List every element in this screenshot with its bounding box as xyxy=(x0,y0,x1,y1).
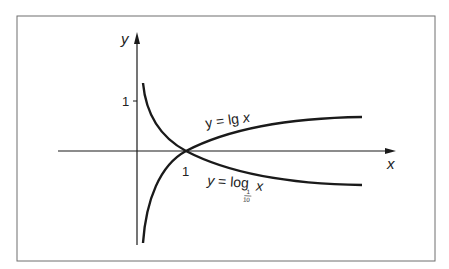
y-axis-arrow-icon xyxy=(134,32,140,44)
x-tick-label: 1 xyxy=(182,164,189,179)
svg-text:x: x xyxy=(255,177,265,194)
curve-log-one-tenth-x xyxy=(143,83,362,185)
figure-frame xyxy=(17,16,435,261)
curve-log-one-tenth-label: y = log 1 10 x xyxy=(205,172,265,204)
log-graph-figure: y x 1 1 y = lg x y = log 1 10 x xyxy=(0,0,449,269)
x-axis-label: x xyxy=(386,155,395,172)
svg-text:y = log: y = log xyxy=(206,172,250,191)
y-axis-label: y xyxy=(120,30,130,47)
curve-lg-x xyxy=(143,117,362,243)
svg-text:1: 1 xyxy=(246,189,250,195)
y-tick-label: 1 xyxy=(122,94,129,109)
svg-text:10: 10 xyxy=(243,197,251,203)
x-axis-arrow-icon xyxy=(385,148,396,154)
curve-lg-label: y = lg x xyxy=(204,109,252,131)
